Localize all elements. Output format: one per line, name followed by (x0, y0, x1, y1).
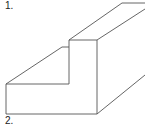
edge-lower-step-top (6, 47, 69, 84)
edge-top-right-diagonal (97, 9, 145, 40)
edge-bottom-right-diagonal (97, 75, 145, 114)
figure-label-2: 2. (5, 116, 13, 126)
edge-top-left-diagonal (69, 3, 122, 40)
step-block-diagram (0, 0, 145, 129)
